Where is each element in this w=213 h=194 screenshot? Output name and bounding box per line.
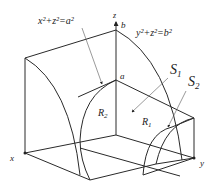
top-edge [25, 30, 116, 58]
region-r2-label: R2 [97, 107, 108, 120]
equation-b-label: y²+z²=b² [135, 27, 173, 38]
inner-floor-line [80, 148, 180, 176]
point-b-label: b [121, 20, 126, 30]
z-axis-label: z [112, 11, 117, 20]
x-bottom-edge [25, 153, 90, 180]
region-r1-label: R1 [141, 116, 152, 129]
y-axis-line [116, 135, 194, 158]
s1-pointer [132, 78, 168, 112]
x-axis-back [25, 135, 116, 153]
cylinder-intersection-diagram: x²+z²=a² y²+z²=b² z b a x y R2 R1 S1 S2 [0, 0, 213, 194]
point-a-label: a [120, 71, 125, 81]
arc-r1-outer [143, 127, 172, 175]
arc-left-outer [25, 58, 80, 175]
equation-a-pointer [82, 28, 102, 84]
arc-r1-inner [156, 118, 194, 164]
x-axis-dot [24, 152, 27, 155]
arc-b [116, 30, 182, 160]
surface-s2-label: S2 [188, 74, 200, 91]
x-axis-label: x [9, 153, 14, 163]
equation-a-label: x²+z²=a² [37, 15, 75, 26]
y-bottom-edge [156, 158, 194, 164]
arc-a-left-lower [80, 140, 90, 180]
y-axis-label: y [199, 158, 204, 168]
surface-s1-label: S1 [170, 62, 182, 79]
y-axis-dot [193, 157, 196, 160]
